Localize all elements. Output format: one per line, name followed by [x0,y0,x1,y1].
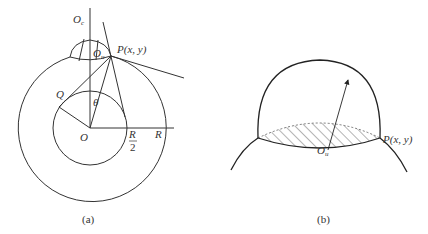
tangent-line-steep [103,22,125,117]
label-Q: Q [56,88,64,100]
label-R: R [154,128,162,140]
label-P-b: P(x, y) [382,133,413,146]
tangent-line-right [111,56,184,78]
label-P: P(x, y) [116,43,147,56]
surface-left [231,138,258,170]
diagram-canvas: Oc Ou P(x, y) Q θ O R 2 R (a) Ou P(x, y)… [0,0,428,234]
label-O: O [80,131,88,143]
label-Oc: Oc [73,13,85,27]
label-Ou: Ou [93,47,105,61]
outer-circle [18,56,166,202]
label-R-half-denominator: 2 [130,141,136,153]
figure-b: Ou P(x, y) (b) [231,60,413,226]
figure-a: Oc Ou P(x, y) Q θ O R 2 R (a) [18,8,184,226]
label-theta: θ [93,96,99,108]
caption-a: (a) [82,213,95,226]
line-Q-O [59,107,90,128]
caption-b: (b) [317,213,330,226]
label-R-half-numerator: R [128,128,136,140]
